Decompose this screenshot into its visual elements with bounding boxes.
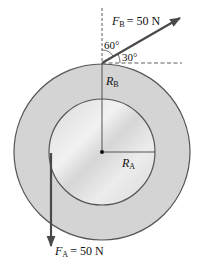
pulley-diagram: FB= 50 N 60° 30° RB RA FA= 50 N — [0, 0, 198, 263]
force-a-label: FA= 50 N — [54, 244, 104, 259]
angle-arc-30 — [118, 54, 120, 63]
angle-60-label: 60° — [104, 39, 119, 51]
force-b-label: FB= 50 N — [111, 14, 160, 29]
angle-30-label: 30° — [122, 51, 137, 63]
center-point — [100, 150, 104, 154]
